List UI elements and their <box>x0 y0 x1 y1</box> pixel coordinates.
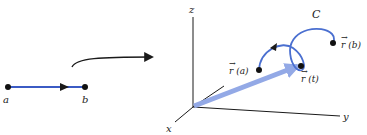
vector-arrow-glyph: → <box>229 59 236 68</box>
y-axis-label: y <box>342 111 349 122</box>
r-t-label: r (t) → <box>301 67 319 84</box>
interval-end-label: b <box>82 94 88 105</box>
curve-end-point <box>330 40 336 46</box>
y-axis <box>193 107 340 116</box>
parameter-interval: a b <box>3 83 88 105</box>
interval-start-point <box>5 84 11 90</box>
z-axis-label: z <box>188 4 195 15</box>
x-axis <box>175 107 193 122</box>
space-curve: C <box>256 8 336 73</box>
curve-name-label: C <box>312 8 321 21</box>
interval-end-point <box>82 84 88 90</box>
parametric-curve-diagram: a b z y x C r (a) → r (b) → r (t) → <box>0 0 367 135</box>
r-a-label: r (a) → <box>229 59 249 76</box>
r-b-label: r (b) → <box>341 33 361 50</box>
interval-start-label: a <box>3 94 9 105</box>
direction-arrow-icon <box>60 83 69 91</box>
vector-arrow-glyph: → <box>301 67 308 76</box>
vector-arrow-glyph: → <box>341 33 348 42</box>
x-axis-label: x <box>166 123 172 134</box>
mapping-arrow-icon <box>72 57 152 67</box>
curve-start-point <box>256 67 262 73</box>
